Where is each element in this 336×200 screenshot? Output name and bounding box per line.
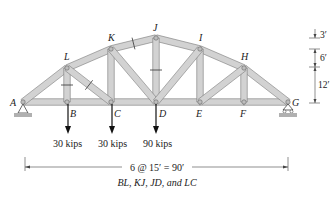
- joint-E: [198, 100, 202, 104]
- joint-D: [154, 100, 158, 104]
- joint-B: [65, 100, 69, 104]
- node-label-C: C: [114, 108, 121, 119]
- node-label-J: J: [153, 22, 158, 33]
- node-label-K: K: [107, 32, 116, 43]
- height-dim-12: 12′: [318, 80, 330, 90]
- load-label-C: 30 kips: [98, 138, 127, 149]
- pin-support-icon: [14, 104, 32, 117]
- node-label-E: E: [195, 108, 202, 119]
- caption: BL, KJ, JD, and LC: [117, 177, 197, 188]
- load-label-B: 30 kips: [53, 138, 82, 149]
- joint-C: [109, 100, 113, 104]
- node-label-D: D: [158, 108, 167, 119]
- member-DE: [156, 99, 200, 106]
- node-label-A: A: [9, 97, 17, 108]
- joint-K: [109, 47, 113, 51]
- joint-L: [65, 66, 69, 70]
- joint-H: [242, 66, 246, 70]
- node-label-F: F: [239, 108, 247, 119]
- member-JI: [155, 35, 201, 52]
- joint-F: [242, 100, 246, 104]
- member-KD: [109, 47, 159, 104]
- node-label-I: I: [198, 32, 203, 43]
- caption-text: BL, KJ, JD, and LC: [117, 177, 197, 188]
- truss-diagram: A B C D E F G L K J I H 30 kips 30 kips …: [0, 0, 336, 200]
- span-dimension-label: 6 @ 15′ = 90′: [130, 162, 184, 173]
- member-CD: [111, 99, 156, 106]
- node-label-B: B: [70, 108, 76, 119]
- height-dim-6: 6′: [320, 53, 327, 63]
- node-label-H: H: [240, 51, 249, 62]
- node-label-G: G: [292, 97, 299, 108]
- load-label-D: 90 kips: [143, 138, 172, 149]
- height-dimension-lines: [309, 29, 320, 103]
- member-ID: [153, 47, 202, 104]
- height-dim-3: 3′: [320, 30, 327, 40]
- member-IH: [199, 46, 246, 71]
- member-LK: [66, 46, 113, 71]
- joint-J: [154, 36, 158, 40]
- node-label-L: L: [63, 51, 70, 62]
- joint-I: [198, 47, 202, 51]
